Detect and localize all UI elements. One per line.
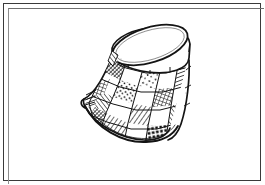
illustration-page: Checkered cylindrical basket Hand-drawn …	[0, 0, 265, 185]
basket-illustration	[0, 0, 265, 185]
pattern-cell	[181, 112, 190, 137]
basket-figure	[81, 17, 192, 149]
